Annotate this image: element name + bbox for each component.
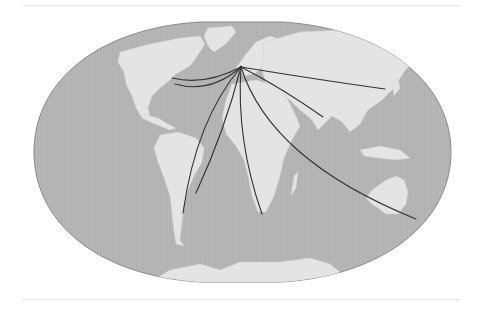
bottom-divider [22, 299, 460, 300]
hub-point [240, 66, 243, 69]
world-map [0, 0, 479, 310]
